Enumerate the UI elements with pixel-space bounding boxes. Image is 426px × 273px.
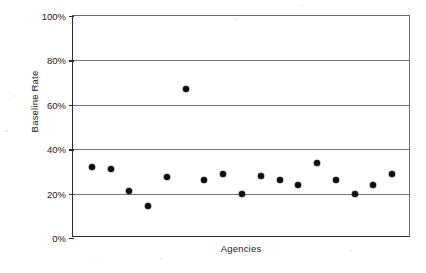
data-point: [108, 166, 114, 172]
scan-speckle: [160, 258, 162, 260]
y-axis-tick-label: 60%: [47, 99, 66, 110]
data-point: [333, 177, 339, 183]
scatter-chart: Baseline Rate 100%80%60%40%20%0% Agencie…: [0, 0, 426, 273]
y-axis-tick-mark: [69, 238, 74, 239]
data-point: [258, 173, 264, 179]
y-axis-tick-label: 100%: [42, 11, 66, 22]
data-point: [389, 171, 395, 177]
y-axis-tick-mark: [69, 105, 74, 106]
scan-speckle: [12, 95, 14, 97]
scan-speckle: [300, 5, 302, 7]
data-point: [201, 177, 207, 183]
scan-speckle: [408, 8, 411, 10]
data-point: [314, 160, 320, 166]
data-point: [295, 182, 301, 188]
y-axis-tick-label: 20%: [47, 188, 66, 199]
scan-speckle: [235, 18, 237, 20]
y-axis-tick-mark: [69, 194, 74, 195]
data-point: [145, 203, 151, 209]
y-axis-title: Baseline Rate: [29, 32, 40, 172]
data-point: [370, 182, 376, 188]
data-point: [352, 191, 358, 197]
y-axis-tick-label: 80%: [47, 55, 66, 66]
y-axis-tick-label: 0%: [52, 233, 66, 244]
y-axis-tick-label: 40%: [47, 144, 66, 155]
gridline: [73, 105, 409, 106]
y-axis-tick-mark: [69, 149, 74, 150]
plot-area: 100%80%60%40%20%0%: [72, 15, 410, 237]
data-point: [164, 174, 170, 180]
scan-speckle: [5, 130, 8, 132]
y-axis-tick-mark: [69, 60, 74, 61]
data-point: [89, 164, 95, 170]
scan-speckle: [95, 262, 97, 263]
scan-speckle: [350, 250, 352, 252]
data-point: [220, 171, 226, 177]
y-axis-tick-mark: [69, 16, 74, 17]
data-point: [183, 86, 189, 92]
gridline: [73, 60, 409, 61]
gridline: [73, 149, 409, 150]
data-point: [277, 177, 283, 183]
data-point: [239, 191, 245, 197]
x-axis-title: Agencies: [72, 243, 410, 254]
